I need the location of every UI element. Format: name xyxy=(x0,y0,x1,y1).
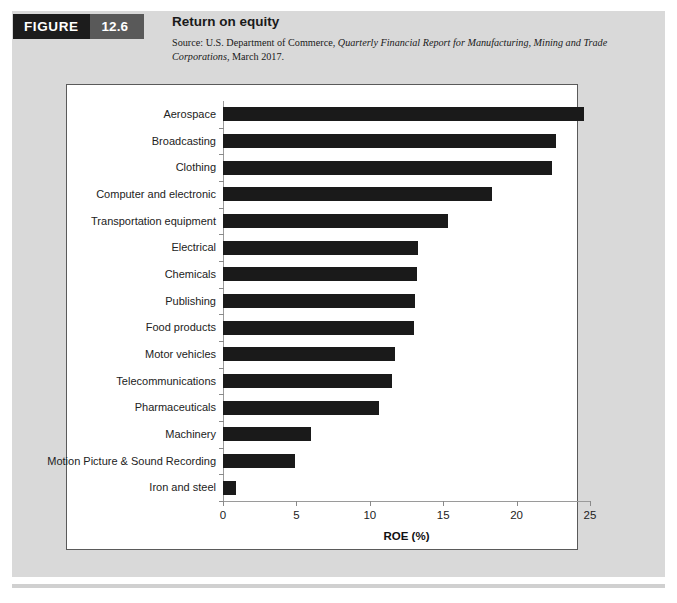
x-axis-tick xyxy=(590,501,591,506)
bar xyxy=(223,347,395,361)
bar xyxy=(223,374,392,388)
y-axis-tick xyxy=(219,394,224,395)
y-axis-tick xyxy=(219,314,224,315)
figure-tag-number: 12.6 xyxy=(90,14,144,39)
x-axis-tick-label: 5 xyxy=(293,509,299,521)
figure-title: Return on equity xyxy=(172,14,642,30)
bar-row: Iron and steel xyxy=(223,474,236,501)
bar-row: Pharmaceuticals xyxy=(223,394,379,421)
figure-tag-label: FIGURE xyxy=(13,14,90,39)
x-axis-tick xyxy=(443,501,444,506)
bar xyxy=(223,294,415,308)
bar-row: Clothing xyxy=(223,154,552,181)
bar xyxy=(223,427,311,441)
bar-category-label: Iron and steel xyxy=(149,474,216,501)
bar-row: Aerospace xyxy=(223,101,584,128)
bar xyxy=(223,481,236,495)
y-axis-tick xyxy=(219,474,224,475)
bar-row: Chemicals xyxy=(223,261,417,288)
y-axis-tick xyxy=(219,368,224,369)
bar-category-label: Electrical xyxy=(171,234,216,261)
bar-row: Motion Picture & Sound Recording xyxy=(223,448,295,475)
source-prefix: Source: U.S. Department of Commerce, xyxy=(172,37,338,48)
bar-row: Motor vehicles xyxy=(223,341,395,368)
x-axis-title: ROE (%) xyxy=(223,530,590,542)
bar-category-label: Telecommunications xyxy=(116,368,216,395)
bar-row: Telecommunications xyxy=(223,368,392,395)
x-axis-tick-label: 10 xyxy=(363,509,376,521)
y-axis-tick xyxy=(219,128,224,129)
figure-title-block: Return on equity Source: U.S. Department… xyxy=(172,14,642,63)
y-axis-tick xyxy=(219,421,224,422)
y-axis-tick xyxy=(219,448,224,449)
bar-category-label: Broadcasting xyxy=(152,128,216,155)
bar-category-label: Motor vehicles xyxy=(145,341,216,368)
y-axis-tick xyxy=(219,154,224,155)
bar xyxy=(223,107,584,121)
bar-row: Broadcasting xyxy=(223,128,556,155)
bar-row: Machinery xyxy=(223,421,311,448)
figure-header: FIGURE 12.6 Return on equity Source: U.S… xyxy=(0,14,653,74)
bar-category-label: Clothing xyxy=(176,154,216,181)
bar xyxy=(223,267,417,281)
page-rule-top xyxy=(12,8,665,11)
bar xyxy=(223,321,414,335)
y-axis-tick xyxy=(219,288,224,289)
x-axis-tick-label: 25 xyxy=(584,509,597,521)
bar xyxy=(223,187,492,201)
bar-row: Computer and electronic xyxy=(223,181,492,208)
bar-row: Transportation equipment xyxy=(223,208,448,235)
figure-page: FIGURE 12.6 Return on equity Source: U.S… xyxy=(0,0,677,603)
page-rule-bottom xyxy=(12,577,665,580)
x-axis-tick-label: 15 xyxy=(437,509,450,521)
bar-row: Food products xyxy=(223,314,414,341)
x-axis-tick xyxy=(370,501,371,506)
bar-row: Electrical xyxy=(223,234,418,261)
x-axis-tick-label: 0 xyxy=(220,509,226,521)
bar xyxy=(223,241,418,255)
bar-category-label: Motion Picture & Sound Recording xyxy=(47,448,216,475)
y-axis-tick xyxy=(219,341,224,342)
figure-source: Source: U.S. Department of Commerce, Qua… xyxy=(172,36,642,63)
source-suffix: , March 2017. xyxy=(227,51,284,62)
y-axis-tick xyxy=(219,234,224,235)
y-axis-tick xyxy=(219,208,224,209)
bar xyxy=(223,401,379,415)
bar-category-label: Publishing xyxy=(165,288,216,315)
bar-category-label: Food products xyxy=(146,314,216,341)
figure-tag: FIGURE 12.6 xyxy=(13,14,144,39)
bar-category-label: Transportation equipment xyxy=(91,208,216,235)
bar-category-label: Aerospace xyxy=(163,101,216,128)
bar-category-label: Chemicals xyxy=(165,261,216,288)
bar xyxy=(223,214,448,228)
x-axis-tick xyxy=(223,501,224,506)
y-axis-tick xyxy=(219,261,224,262)
x-axis-line xyxy=(223,501,591,502)
x-axis-tick xyxy=(517,501,518,506)
x-axis-tick xyxy=(296,501,297,506)
bar xyxy=(223,161,552,175)
page-bottom-band xyxy=(12,584,665,588)
bar-category-label: Computer and electronic xyxy=(96,181,216,208)
y-axis-tick xyxy=(219,181,224,182)
bar-row: Publishing xyxy=(223,288,415,315)
bar-category-label: Machinery xyxy=(165,421,216,448)
bar xyxy=(223,134,556,148)
bar-category-label: Pharmaceuticals xyxy=(135,394,216,421)
chart-frame: AerospaceBroadcastingClothingComputer an… xyxy=(66,84,578,550)
x-axis-tick-label: 20 xyxy=(510,509,523,521)
bar xyxy=(223,454,295,468)
